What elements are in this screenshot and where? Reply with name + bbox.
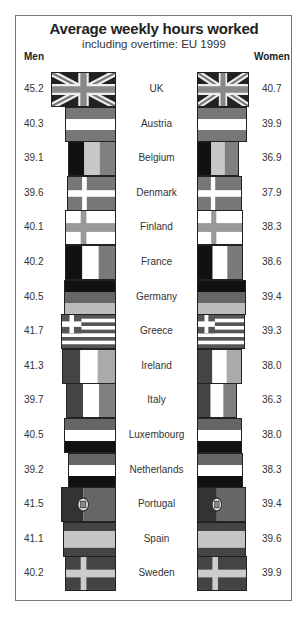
men-flag-bar: [61, 487, 116, 522]
finland-flag-icon: [198, 211, 242, 244]
country-label: UK: [116, 83, 197, 94]
denmark-flag-icon: [198, 177, 241, 210]
men-flag-bar: [66, 383, 116, 418]
chart-row: 41.7Greece39.3: [0, 314, 308, 349]
chart-row: 40.3Austria39.9: [0, 107, 308, 142]
women-value: 39.9: [262, 567, 281, 578]
italy-flag-icon: [67, 384, 115, 417]
women-value: 38.6: [262, 256, 281, 267]
men-value: 39.1: [24, 152, 43, 163]
women-value: 39.4: [262, 498, 281, 509]
men-value: 40.2: [24, 256, 43, 267]
men-flag-bar: [51, 72, 116, 107]
uk-flag-icon: [198, 73, 248, 106]
country-label: Spain: [116, 533, 197, 544]
country-label: Sweden: [116, 567, 197, 578]
men-flag-bar: [63, 522, 116, 557]
women-value: 39.3: [262, 325, 281, 336]
men-flag-bar: [62, 349, 116, 384]
denmark-flag-icon: [68, 177, 115, 210]
country-label: Portugal: [116, 498, 197, 509]
women-value: 36.9: [262, 152, 281, 163]
women-flag-bar: [197, 383, 237, 418]
country-label: Finland: [116, 221, 197, 232]
men-flag-bar: [65, 107, 116, 142]
women-flag-bar: [197, 176, 242, 211]
chart-row: 39.6Denmark37.9: [0, 176, 308, 211]
germany-flag-icon: [198, 281, 245, 314]
women-flag-bar: [197, 556, 247, 591]
italy-flag-icon: [198, 384, 236, 417]
chart-row: 40.5Luxembourg38.0: [0, 418, 308, 453]
chart-row: 45.2UK40.7: [0, 72, 308, 107]
sweden-flag-icon: [198, 557, 246, 590]
country-label: Netherlands: [116, 464, 197, 475]
women-flag-bar: [197, 349, 242, 384]
luxembourg-flag-icon: [65, 419, 115, 452]
men-header: Men: [24, 51, 44, 62]
women-flag-bar: [197, 418, 242, 453]
men-value: 40.1: [24, 221, 43, 232]
women-flag-bar: [197, 453, 243, 488]
men-value: 40.2: [24, 567, 43, 578]
country-label: Denmark: [116, 187, 197, 198]
austria-flag-icon: [66, 108, 115, 141]
country-label: Ireland: [116, 360, 197, 371]
women-value: 36.3: [262, 394, 281, 405]
finland-flag-icon: [66, 211, 115, 244]
women-value: 40.7: [262, 83, 281, 94]
chart-subtitle: including overtime: EU 1999: [0, 38, 308, 50]
country-label: Luxembourg: [116, 429, 197, 440]
chart-row: 39.1Belgium36.9: [0, 141, 308, 176]
women-flag-bar: [197, 487, 246, 522]
spain-flag-icon: [198, 523, 245, 556]
portugal-flag-icon: [198, 488, 245, 521]
women-value: 38.0: [262, 360, 281, 371]
country-label: Germany: [116, 291, 197, 302]
men-flag-bar: [64, 418, 116, 453]
uk-flag-icon: [52, 73, 115, 106]
women-value: 39.4: [262, 291, 281, 302]
men-flag-bar: [68, 453, 116, 488]
luxembourg-flag-icon: [198, 419, 241, 452]
country-label: Austria: [116, 118, 197, 129]
men-value: 41.7: [24, 325, 43, 336]
greece-flag-icon: [198, 315, 244, 348]
country-label: Greece: [116, 325, 197, 336]
country-label: Belgium: [116, 152, 197, 163]
men-flag-bar: [68, 141, 116, 176]
belgium-flag-icon: [69, 142, 115, 175]
ireland-flag-icon: [63, 350, 115, 383]
chart-row: 40.1Finland38.3: [0, 210, 308, 245]
france-flag-icon: [66, 246, 115, 279]
men-value: 41.1: [24, 533, 43, 544]
women-flag-bar: [197, 107, 247, 142]
chart-title: Average weekly hours worked: [0, 20, 308, 37]
chart-row: 41.5Portugal39.4: [0, 487, 308, 522]
men-value: 41.5: [24, 498, 43, 509]
men-flag-bar: [65, 210, 116, 245]
belgium-flag-icon: [198, 142, 238, 175]
men-value: 39.7: [24, 394, 43, 405]
women-value: 38.0: [262, 429, 281, 440]
country-label: France: [116, 256, 197, 267]
men-flag-bar: [65, 556, 116, 591]
women-flag-bar: [197, 314, 245, 349]
men-flag-bar: [61, 314, 116, 349]
chart-row: 40.5Germany39.4: [0, 280, 308, 315]
men-flag-bar: [67, 176, 116, 211]
men-value: 45.2: [24, 83, 43, 94]
women-flag-bar: [197, 72, 249, 107]
chart-row: 40.2France38.6: [0, 245, 308, 280]
women-flag-bar: [197, 280, 246, 315]
france-flag-icon: [198, 246, 242, 279]
women-value: 38.3: [262, 464, 281, 475]
women-value: 39.6: [262, 533, 281, 544]
chart-row: 39.7Italy36.3: [0, 383, 308, 418]
men-value: 40.3: [24, 118, 43, 129]
men-flag-bar: [65, 245, 116, 280]
men-value: 40.5: [24, 429, 43, 440]
chart-row: 41.1Spain39.6: [0, 522, 308, 557]
men-value: 39.6: [24, 187, 43, 198]
women-flag-bar: [197, 210, 243, 245]
